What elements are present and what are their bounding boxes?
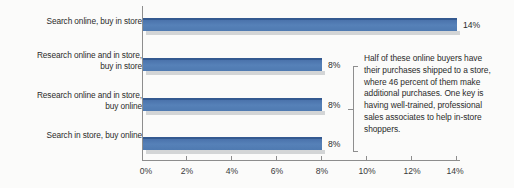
x-tick-label-4: 8%	[316, 166, 328, 176]
bar-highlight-1	[143, 58, 322, 60]
bar-value-1: 8%	[328, 60, 340, 70]
bar-group-1: 8%	[143, 58, 322, 71]
callout-text: Half of these online buyers have their p…	[364, 53, 512, 136]
callout-line-1: their purchases shipped to a store,	[364, 65, 512, 77]
bar-group-0: 14%	[143, 18, 457, 31]
bar-shadow-1	[146, 71, 325, 75]
x-tick-4	[321, 156, 322, 161]
bar-shadow-3	[146, 150, 325, 154]
x-tick-6	[411, 156, 412, 161]
bar-group-3: 8%	[143, 137, 322, 150]
x-tick-label-1: 2%	[181, 166, 193, 176]
bar-1[interactable]	[143, 58, 322, 71]
callout-line-5: sales associates to help in-store	[364, 112, 512, 124]
callout-line-0: Half of these online buyers have	[364, 53, 512, 65]
bracket-arm-pointer	[348, 109, 353, 110]
x-tick-label-2: 4%	[226, 166, 238, 176]
category-label-2: Research online and in store, buy online	[37, 90, 142, 111]
category-label-0: Search online, buy in store	[46, 16, 142, 27]
bracket-arm-top	[353, 66, 358, 67]
x-tick-1	[186, 156, 187, 161]
bar-0[interactable]	[143, 18, 457, 31]
callout-line-6: shoppers.	[364, 124, 512, 136]
x-tick-label-7: 14%	[446, 166, 463, 176]
bar-chart: Search online, buy in store Research onl…	[0, 0, 514, 188]
x-tick-label-6: 12%	[403, 166, 420, 176]
x-tick-5	[366, 156, 367, 161]
x-tick-2	[231, 156, 232, 161]
bar-2[interactable]	[143, 98, 322, 111]
bar-group-2: 8%	[143, 98, 322, 111]
bar-3[interactable]	[143, 137, 322, 150]
x-tick-3	[276, 156, 277, 161]
category-label-1: Research online and in store, buy in sto…	[37, 50, 142, 71]
x-tick-label-5: 10%	[358, 166, 375, 176]
bracket-arm-bottom	[353, 151, 358, 152]
bracket-spine	[353, 66, 354, 152]
category-label-3: Search in store, buy online	[46, 130, 142, 141]
callout-line-2: where 46 percent of them make	[364, 77, 512, 89]
bar-value-0: 14%	[463, 20, 480, 30]
x-tick-0	[142, 156, 143, 161]
callout-line-3: additional purchases. One key is	[364, 88, 512, 100]
callout-bracket	[349, 66, 358, 152]
x-tick-label-3: 6%	[271, 166, 283, 176]
x-tick-7	[456, 156, 457, 161]
bar-shadow-0	[146, 31, 460, 35]
bar-highlight-2	[143, 98, 322, 100]
bar-value-2: 8%	[328, 100, 340, 110]
callout-line-4: having well-trained, professional	[364, 100, 512, 112]
x-axis-line	[142, 160, 460, 161]
bar-highlight-0	[143, 18, 457, 20]
bar-value-3: 8%	[328, 139, 340, 149]
bar-shadow-2	[146, 111, 325, 115]
x-tick-label-0: 0%	[140, 166, 152, 176]
bar-highlight-3	[143, 137, 322, 139]
